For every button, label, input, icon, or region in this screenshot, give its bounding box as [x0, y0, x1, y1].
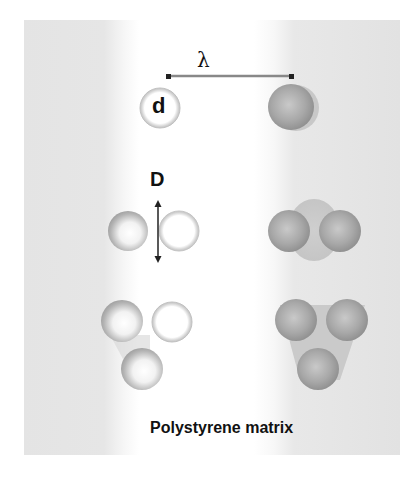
- dimer-separated: [108, 211, 199, 251]
- pair-distance-label: D: [150, 168, 164, 191]
- dimer-fused: [268, 199, 361, 261]
- lambda-label: λ: [197, 48, 210, 72]
- trimer-fused: [275, 299, 368, 390]
- particle-diameter-label: d: [152, 93, 165, 119]
- lambda-spacing-line: [166, 74, 294, 79]
- particle-diagram: [0, 0, 418, 480]
- coated-particle: [268, 84, 314, 130]
- caption-polystyrene-matrix: Polystyrene matrix: [150, 419, 293, 437]
- trimer-separated: [101, 300, 192, 390]
